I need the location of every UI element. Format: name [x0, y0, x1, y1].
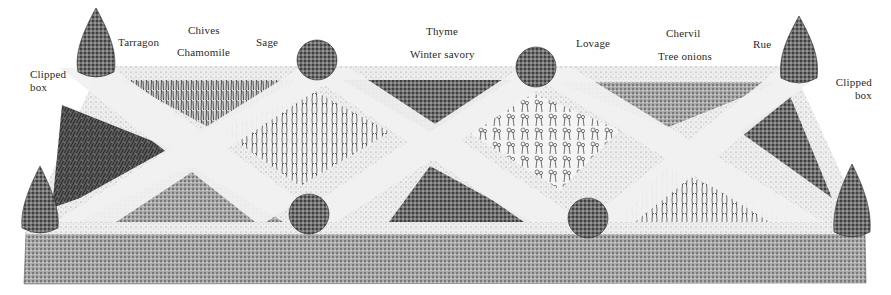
cone-topiary-top-left	[77, 8, 115, 77]
cone-topiary-top-right	[780, 16, 817, 83]
label-clipped-box-right-line1: Clipped	[828, 76, 872, 89]
label-clipped-box-right-line2: box	[828, 89, 872, 102]
ball-topiary-top-1	[297, 40, 337, 80]
label-tree-onions: Tree onions	[658, 50, 712, 63]
label-tarragon: Tarragon	[118, 36, 159, 49]
label-chives: Chives	[188, 24, 220, 37]
label-chervil: Chervil	[666, 27, 700, 40]
label-thyme: Thyme	[426, 25, 458, 38]
front-hedge	[24, 232, 866, 284]
label-winter-savory: Winter savory	[410, 48, 475, 61]
label-clipped-box-left-line2: box	[30, 81, 66, 94]
label-clipped-box-right: Clipped box	[828, 76, 872, 102]
label-clipped-box-left-line1: Clipped	[30, 68, 66, 81]
label-clipped-box-left: Clipped box	[30, 68, 66, 94]
label-rue: Rue	[753, 38, 771, 51]
label-lovage: Lovage	[576, 37, 610, 50]
ball-topiary-top-2	[516, 47, 556, 87]
ball-topiary-bottom-1	[289, 194, 329, 234]
ball-topiary-bottom-2	[568, 198, 608, 238]
herb-garden-diagram: Clipped box Tarragon Chives Chamomile Sa…	[0, 0, 891, 295]
label-chamomile: Chamomile	[177, 46, 230, 59]
label-sage: Sage	[256, 36, 278, 49]
